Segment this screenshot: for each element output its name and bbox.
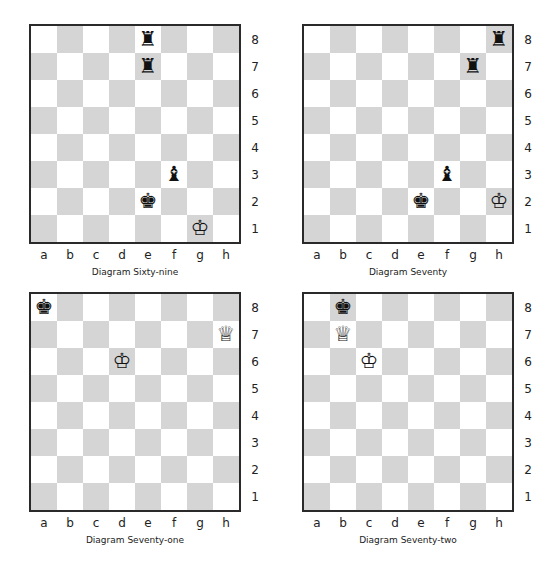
rank-label: 8	[520, 294, 536, 321]
square-f6	[434, 348, 460, 375]
white-queen-icon: ♕	[217, 324, 236, 345]
file-label: a	[304, 248, 330, 264]
square-d3	[382, 161, 408, 188]
square-g4	[187, 134, 213, 161]
square-b5	[330, 375, 356, 402]
square-d6	[382, 80, 408, 107]
square-a7	[31, 321, 57, 348]
square-g2	[460, 188, 486, 215]
square-c6	[356, 80, 382, 107]
square-h3	[486, 429, 512, 456]
square-b6	[330, 348, 356, 375]
file-label: h	[213, 248, 239, 264]
chessboard: ♚♕♔	[302, 292, 514, 512]
square-c3	[356, 161, 382, 188]
square-c6	[83, 80, 109, 107]
square-f7	[434, 53, 460, 80]
rank-label: 4	[247, 402, 263, 429]
square-h7	[486, 321, 512, 348]
rank-label: 2	[520, 188, 536, 215]
rank-label: 8	[247, 294, 263, 321]
square-b5	[330, 107, 356, 134]
rank-label: 5	[520, 375, 536, 402]
square-a3	[304, 161, 330, 188]
square-f4	[434, 134, 460, 161]
square-d6	[382, 348, 408, 375]
square-c7	[83, 321, 109, 348]
square-d1	[382, 215, 408, 242]
black-king-icon: ♚	[139, 191, 158, 212]
square-h2	[213, 188, 239, 215]
file-label: g	[460, 248, 486, 264]
diagram-seventy-one: ♚♕♔ 87654321 abcdefgh Diagram Seventy-on…	[29, 292, 301, 564]
square-f5	[434, 107, 460, 134]
square-e8	[408, 26, 434, 53]
square-d3	[109, 429, 135, 456]
file-label: e	[408, 248, 434, 264]
square-d5	[109, 375, 135, 402]
square-d8	[109, 294, 135, 321]
square-e7: ♜	[135, 53, 161, 80]
file-label: c	[356, 516, 382, 532]
square-f3: ♝	[161, 161, 187, 188]
square-b7	[330, 53, 356, 80]
file-label: b	[330, 248, 356, 264]
square-b8	[57, 26, 83, 53]
square-a2	[304, 188, 330, 215]
file-label: f	[434, 248, 460, 264]
black-rook-icon: ♜	[490, 29, 509, 50]
square-f4	[161, 134, 187, 161]
black-rook-icon: ♜	[464, 56, 483, 77]
square-g7	[460, 321, 486, 348]
rank-label: 4	[520, 402, 536, 429]
rank-label: 8	[520, 26, 536, 53]
square-h3	[486, 161, 512, 188]
square-g6	[460, 348, 486, 375]
rank-label: 5	[247, 375, 263, 402]
file-label: d	[109, 248, 135, 264]
file-labels: abcdefgh	[31, 248, 239, 264]
square-f3: ♝	[434, 161, 460, 188]
square-b1	[57, 215, 83, 242]
square-g3	[187, 161, 213, 188]
file-label: d	[382, 248, 408, 264]
square-f6	[161, 348, 187, 375]
square-h2	[213, 456, 239, 483]
square-h8	[213, 294, 239, 321]
square-a7	[31, 53, 57, 80]
square-d6	[109, 80, 135, 107]
square-f5	[161, 375, 187, 402]
square-d7	[382, 53, 408, 80]
square-h2: ♔	[486, 188, 512, 215]
square-f8	[434, 26, 460, 53]
square-g4	[460, 402, 486, 429]
square-c1	[83, 215, 109, 242]
rank-label: 8	[247, 26, 263, 53]
rank-label: 1	[520, 215, 536, 242]
square-f1	[434, 483, 460, 510]
file-label: g	[460, 516, 486, 532]
square-b4	[330, 402, 356, 429]
diagram-caption: Diagram Sixty-nine	[31, 267, 239, 277]
rank-label: 6	[247, 80, 263, 107]
rank-label: 3	[520, 429, 536, 456]
square-a3	[31, 429, 57, 456]
square-a3	[304, 429, 330, 456]
square-g2	[187, 456, 213, 483]
square-b2	[330, 188, 356, 215]
square-e1	[408, 215, 434, 242]
square-e4	[135, 134, 161, 161]
square-f5	[161, 107, 187, 134]
file-label: g	[187, 248, 213, 264]
square-g7	[187, 321, 213, 348]
square-h8: ♜	[486, 26, 512, 53]
square-g5	[460, 107, 486, 134]
square-e6	[135, 80, 161, 107]
square-c4	[83, 402, 109, 429]
square-g6	[460, 80, 486, 107]
square-c4	[83, 134, 109, 161]
square-b1	[57, 483, 83, 510]
square-h4	[213, 134, 239, 161]
file-label: b	[330, 516, 356, 532]
square-c5	[83, 107, 109, 134]
